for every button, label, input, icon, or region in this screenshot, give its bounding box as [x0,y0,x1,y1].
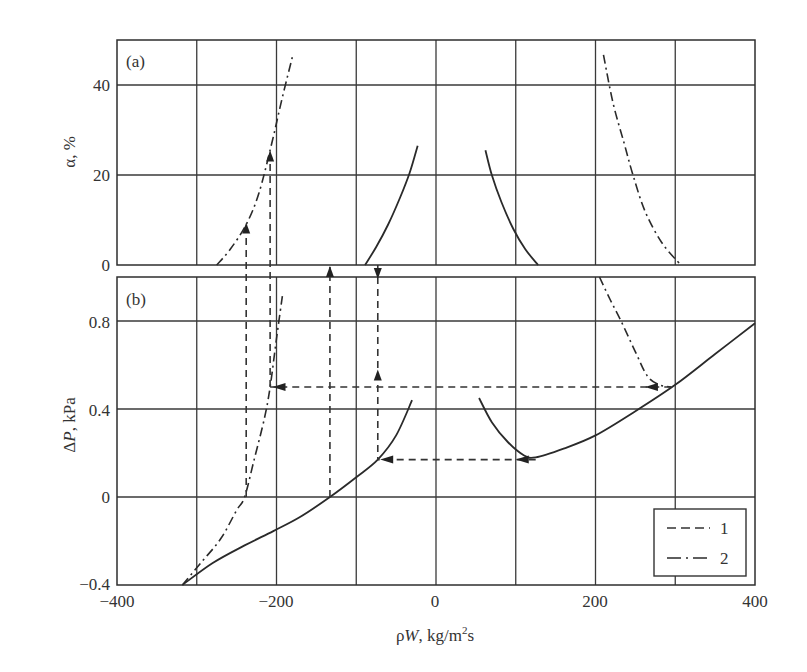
panel-b-label: (b) [126,290,146,309]
legend: 1 2 [654,509,746,576]
arrowhead-icon [266,151,274,162]
xtick-neg200: −200 [258,592,293,611]
legend-box [654,509,746,576]
arrowhead-icon [380,456,393,464]
figure: (a) (b) 40 20 0 0.8 0.4 0 −0.4 −400 −200… [0,0,807,672]
panel-a-solid-curve [485,150,538,265]
transition-arrows [242,151,671,498]
ytick-b-0: 0 [102,488,111,507]
panel-a-solid-curve [365,146,418,265]
ytick-a-40: 40 [93,76,110,95]
ytick-b-0.4: 0.4 [89,401,111,420]
y-axis-label-a: α, % [60,136,79,168]
ytick-b-0.8: 0.8 [89,313,110,332]
data-curves [182,54,755,586]
y-axis-label-b: ΔP, kPa [60,397,79,453]
panel-a-grid [117,40,755,265]
arrowhead-icon [374,369,382,380]
legend-label-1: 1 [720,519,729,538]
x-axis-label: ρW, kg/m2s [396,624,474,645]
arrowhead-icon [273,383,286,391]
arrowhead-icon [645,383,658,391]
xtick-neg400: −400 [99,592,134,611]
arrowhead-icon [516,456,529,464]
panel-a-dashdot-curve [603,55,680,265]
panel-b-dashdot-curve [182,292,282,585]
xtick-400: 400 [742,592,768,611]
ytick-a-0: 0 [102,256,111,275]
xtick-200: 200 [582,592,608,611]
panel-b-solid-curve [479,323,755,458]
arrowhead-icon [242,223,250,234]
panel-a-label: (a) [126,52,145,71]
ytick-a-20: 20 [93,166,110,185]
legend-label-2: 2 [720,549,729,568]
panel-b-dashdot-curve [599,277,671,387]
arrowhead-icon [326,266,334,277]
xtick-0: 0 [431,592,440,611]
